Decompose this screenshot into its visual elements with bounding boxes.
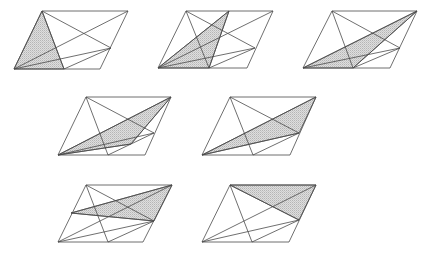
segment-EF <box>108 221 154 242</box>
segment-EF <box>64 48 111 69</box>
parallelogram-figure-1 <box>14 11 128 69</box>
parallelogram-figure-6 <box>58 185 172 242</box>
segment-BC <box>247 11 273 68</box>
parallelogram-figure-4 <box>58 97 171 155</box>
segment-BC <box>100 11 128 69</box>
figures-group <box>14 11 417 242</box>
segment-AF <box>58 221 154 242</box>
segment-DA <box>202 185 230 242</box>
segment-EF <box>252 220 299 242</box>
parallelogram-figure-2 <box>158 11 273 68</box>
parallelogram-figure-3 <box>303 11 417 68</box>
shaded-triangle <box>230 185 316 220</box>
parallelogram-figure-7 <box>202 185 316 242</box>
parallelogram-figure-5 <box>202 97 316 155</box>
parallelogram-diagram-canvas <box>0 0 424 256</box>
segment-AC <box>158 11 273 68</box>
shaded-triangle <box>14 11 64 69</box>
